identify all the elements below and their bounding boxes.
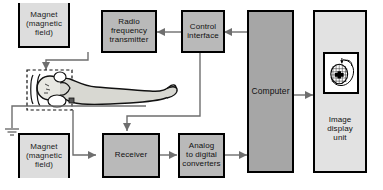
mri-block-diagram: Magnet (magnetic field) Radio frequency … — [0, 0, 383, 190]
patient-figure — [28, 72, 177, 107]
patient-illustration-layer — [0, 0, 383, 190]
